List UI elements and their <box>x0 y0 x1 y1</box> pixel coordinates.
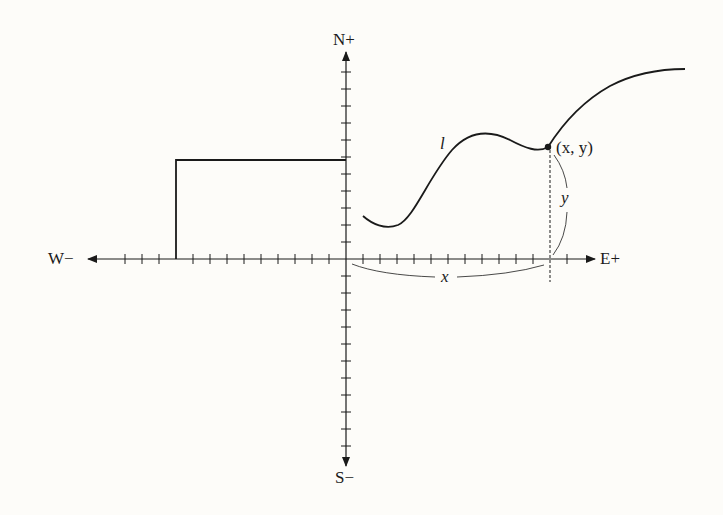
west-label: W− <box>48 249 74 269</box>
south-label: S− <box>335 468 354 488</box>
x-distance-brace-right <box>457 265 544 277</box>
point-label: (x, y) <box>556 138 593 158</box>
curve-label: l <box>440 134 445 154</box>
y-distance-brace <box>554 155 567 188</box>
east-label: E+ <box>600 249 620 269</box>
x-distance-brace <box>352 264 435 277</box>
y-distance-label: y <box>561 188 569 208</box>
rectangle-region <box>176 160 346 259</box>
point-xy-marker <box>545 144 551 150</box>
y-distance-brace-lower <box>553 212 567 255</box>
north-label: N+ <box>333 30 355 50</box>
x-distance-label: x <box>441 267 449 287</box>
curve-l <box>363 69 685 227</box>
